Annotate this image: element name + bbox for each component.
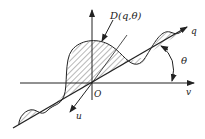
label-pointer-arrow [102, 20, 113, 41]
angle-label: θ [181, 55, 187, 66]
q-axis-label: q [191, 26, 197, 36]
v-axis-label: v [186, 87, 191, 97]
diagram-canvas: D(q,θ) O q v u θ [0, 0, 205, 139]
u-axis-label: u [76, 111, 82, 121]
origin-label: O [94, 89, 102, 99]
curve-label: D(q,θ) [109, 10, 142, 21]
theta-arc [161, 46, 174, 81]
diagram-svg: D(q,θ) O q v u θ [0, 0, 205, 139]
